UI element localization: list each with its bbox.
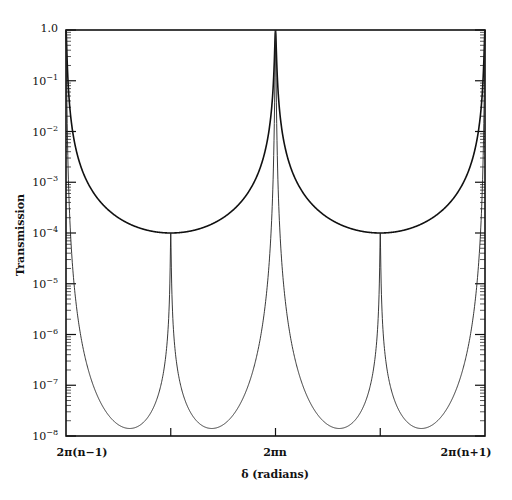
x-tick-label-right: 2π(n+1) (441, 446, 492, 459)
x-tick-label-center: 2πn (263, 446, 287, 459)
y-tick-label: 10−8 (18, 428, 58, 443)
y-tick-label: 10−3 (18, 174, 58, 189)
lower-curve-coupled-cavity (66, 30, 485, 428)
y-tick-label: 10−5 (18, 276, 58, 291)
y-tick-label: 10−1 (18, 73, 58, 88)
x-tick-label-left: 2π(n−1) (57, 446, 108, 459)
transmission-chart (0, 0, 512, 500)
y-tick-label: 10−7 (18, 377, 58, 392)
y-tick-label: 10−6 (18, 327, 58, 342)
plot-frame (66, 30, 485, 436)
x-axis-label: δ (radians) (241, 468, 309, 481)
minor-ticks (66, 32, 485, 420)
y-axis-label: Transmission (14, 194, 27, 276)
y-tick-label: 1.0 (18, 22, 58, 35)
y-tick-label: 10−2 (18, 124, 58, 139)
major-ticks (66, 30, 485, 436)
